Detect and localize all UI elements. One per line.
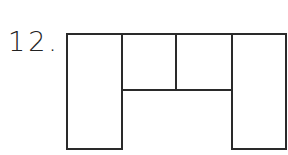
right-tall-rectangle xyxy=(232,34,286,149)
top-middle-left-square xyxy=(122,34,176,90)
top-middle-right-square xyxy=(176,34,232,90)
left-tall-rectangle xyxy=(67,34,122,149)
rectangle-figure xyxy=(0,0,288,155)
